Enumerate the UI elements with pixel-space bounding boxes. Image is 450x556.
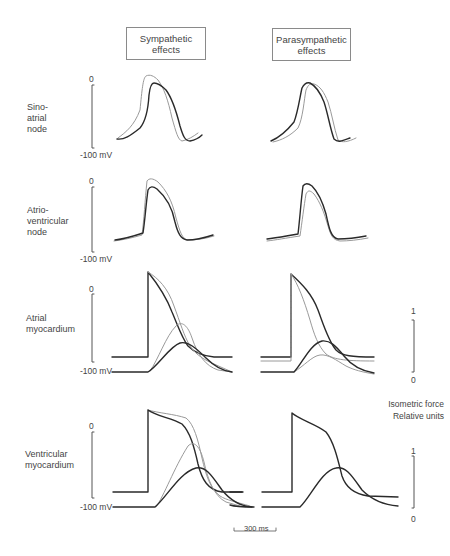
force-scale-brackets bbox=[412, 320, 414, 508]
av-parasympathetic-control bbox=[267, 184, 366, 239]
ventricular-parasympathetic-force-control bbox=[230, 468, 398, 507]
sa-sympathetic-modified bbox=[118, 75, 198, 141]
ventricular-parasympathetic-ap-control bbox=[230, 413, 398, 497]
atrial-parasympathetic-ap-modified bbox=[261, 274, 374, 361]
av-sympathetic-control bbox=[115, 187, 213, 240]
voltage-scale-brackets bbox=[92, 85, 94, 498]
ventricular-sympathetic-ap-control bbox=[113, 410, 242, 492]
sa-sympathetic-control bbox=[117, 83, 202, 141]
time-scale-bar bbox=[234, 528, 276, 531]
action-potential-traces bbox=[0, 0, 450, 556]
sa-parasympathetic-control bbox=[271, 83, 350, 141]
atrial-parasympathetic-ap-control bbox=[261, 274, 374, 357]
av-parasympathetic-modified bbox=[267, 191, 368, 241]
sa-parasympathetic-modified bbox=[273, 84, 356, 142]
av-sympathetic-modified bbox=[114, 179, 214, 241]
ventricular-sympathetic-force-modified bbox=[156, 444, 240, 507]
atrial-sympathetic-ap-control bbox=[112, 272, 232, 357]
